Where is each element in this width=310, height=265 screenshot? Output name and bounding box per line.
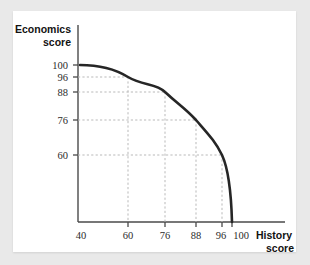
x-axis-title-line1: History — [256, 229, 292, 241]
y-tick-label-88: 88 — [58, 87, 69, 98]
x-tick-marks — [128, 222, 232, 227]
y-axis-title-line2: score — [43, 36, 71, 48]
x-tick-label-76: 76 — [160, 230, 171, 241]
x-tick-labels: 40 60 76 88 96 100 — [76, 230, 249, 241]
y-tick-label-76: 76 — [58, 115, 69, 126]
y-tick-label-60: 60 — [58, 150, 69, 161]
x-tick-label-88: 88 — [191, 230, 202, 241]
x-tick-label-40: 40 — [76, 230, 87, 241]
figure-card: 100 96 88 76 60 40 60 76 88 96 100 Econo… — [13, 11, 296, 252]
y-axis-title: Economics score — [15, 23, 71, 48]
horizontal-gridlines — [78, 77, 222, 155]
ppf-curve-line — [80, 65, 232, 222]
x-tick-label-60: 60 — [123, 230, 134, 241]
y-tick-labels: 100 96 88 76 60 — [52, 60, 68, 161]
x-axis-title: History score — [256, 229, 294, 252]
y-tick-label-96: 96 — [58, 72, 69, 83]
ppf-chart: 100 96 88 76 60 40 60 76 88 96 100 Econo… — [13, 11, 296, 252]
y-axis-title-line1: Economics — [15, 23, 71, 35]
y-tick-marks — [73, 65, 78, 155]
vertical-gridlines — [128, 77, 222, 222]
y-tick-label-100: 100 — [52, 60, 68, 71]
x-tick-label-100: 100 — [233, 230, 249, 241]
x-axis-title-line2: score — [266, 242, 294, 252]
x-tick-label-96: 96 — [216, 230, 227, 241]
